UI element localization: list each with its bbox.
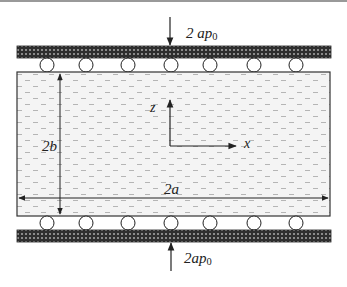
top-load-label: 2 ap0 [186,26,218,43]
width-label: 2a [164,182,179,197]
top-rollers [40,58,303,72]
height-label: 2b [42,139,57,154]
x-axis-label: x [244,137,250,151]
top-plate [17,46,331,58]
bottom-plate [17,230,331,242]
bottom-load-label: 2ap0 [184,251,212,268]
z-axis-label: z [150,101,155,115]
bottom-rollers [40,216,303,230]
